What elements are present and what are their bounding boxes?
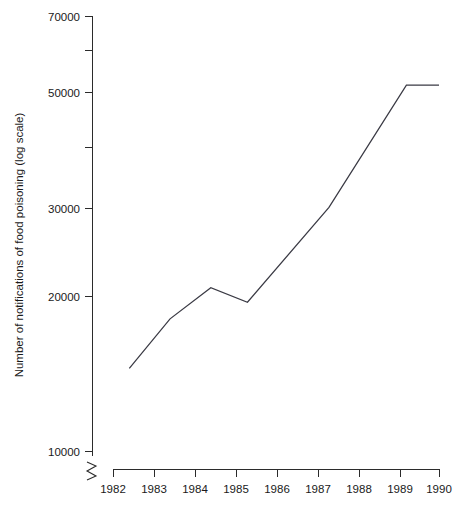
data-series-line xyxy=(129,85,439,368)
x-tick-label-1986: 1986 xyxy=(264,483,290,495)
x-tick-label-1985: 1985 xyxy=(223,483,249,495)
x-axis-tick-labels: 1982 1983 1984 1985 1986 1987 1988 1989 … xyxy=(100,483,452,495)
y-axis-minor-ticks xyxy=(85,51,93,148)
y-tick-label-70000: 70000 xyxy=(48,11,80,23)
x-axis-ticks xyxy=(114,470,440,478)
y-tick-label-20000: 20000 xyxy=(48,291,80,303)
x-tick-label-1988: 1988 xyxy=(346,483,372,495)
line-chart: Number of notifications of food poisonin… xyxy=(0,0,463,511)
x-tick-label-1984: 1984 xyxy=(182,483,208,495)
chart-container: Number of notifications of food poisonin… xyxy=(0,0,463,511)
y-axis-tick-labels: 70000 50000 30000 20000 10000 xyxy=(48,11,80,458)
x-tick-label-1987: 1987 xyxy=(305,483,331,495)
x-tick-label-1990: 1990 xyxy=(426,483,452,495)
y-tick-label-10000: 10000 xyxy=(48,446,80,458)
x-tick-label-1983: 1983 xyxy=(141,483,167,495)
y-tick-label-30000: 30000 xyxy=(48,203,80,215)
y-axis-title: Number of notifications of food poisonin… xyxy=(13,113,25,378)
y-axis-major-ticks xyxy=(85,17,93,452)
axis-break-icon xyxy=(87,462,96,480)
y-tick-label-50000: 50000 xyxy=(48,87,80,99)
x-tick-label-1989: 1989 xyxy=(387,483,413,495)
x-tick-label-1982: 1982 xyxy=(100,483,126,495)
